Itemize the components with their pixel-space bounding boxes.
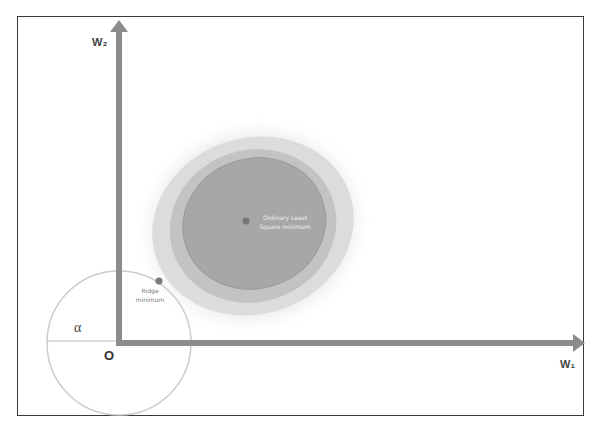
x-axis-label: W₁	[560, 358, 575, 370]
ols-minimum-label: Ordinary Least Square minimum	[252, 213, 318, 231]
origin-label: O	[104, 348, 114, 363]
ols-minimum-point	[243, 218, 250, 225]
y-axis-arrowhead-icon	[110, 20, 128, 32]
ols-label-line2: Square minimum	[252, 222, 318, 231]
ols-label-line1: Ordinary Least	[252, 213, 318, 222]
x-axis	[116, 334, 585, 352]
ridge-label-line2: minimum	[128, 295, 172, 304]
ridge-minimum-label: Ridge minimum	[128, 286, 172, 304]
ridge-label-line1: Ridge	[128, 286, 172, 295]
x-axis-arrowhead-icon	[573, 334, 585, 352]
ridge-minimum-point	[156, 278, 163, 285]
y-axis	[110, 20, 128, 346]
alpha-label: α	[74, 320, 81, 336]
y-axis-label: W₂	[92, 36, 107, 48]
